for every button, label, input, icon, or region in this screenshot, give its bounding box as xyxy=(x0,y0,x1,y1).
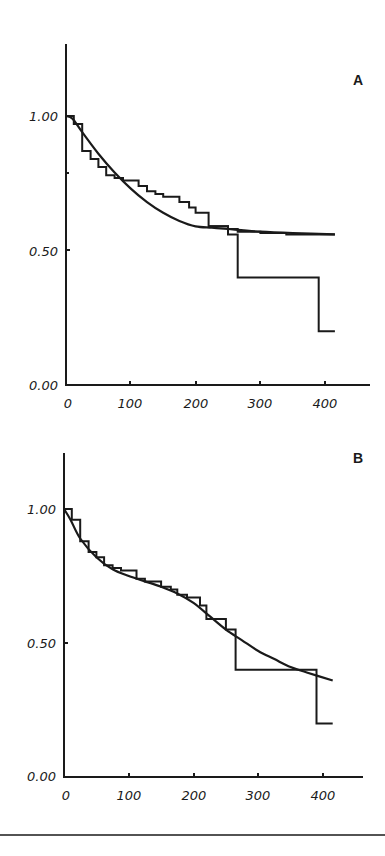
x-tick-label: 100 xyxy=(118,396,143,411)
x-tick-label: 300 xyxy=(248,396,273,411)
x-tick-label: 400 xyxy=(311,788,336,803)
x-tick-label: 0 xyxy=(62,788,70,803)
panel-label-a: A xyxy=(353,72,363,88)
panel-b: 1.00 0.50 0.00 0 100 200 300 400 B xyxy=(27,450,363,803)
y-tick-label: 1.00 xyxy=(29,109,58,124)
fitted-curve xyxy=(64,509,333,681)
x-tick-label: 200 xyxy=(184,396,209,411)
x-tick-label: 100 xyxy=(117,788,142,803)
x-tick-label: 0 xyxy=(64,396,72,411)
y-tick-label: 1.00 xyxy=(27,502,56,517)
y-tick-label: 0.50 xyxy=(29,244,58,259)
plot-area-b xyxy=(64,509,333,723)
step-curve xyxy=(66,116,335,331)
x-tick-label: 400 xyxy=(313,396,338,411)
y-tick-label: 0.00 xyxy=(29,378,58,393)
plot-area-a xyxy=(66,116,335,331)
y-tick-label: 0.00 xyxy=(27,769,56,784)
figure: 1.00 0.50 0.00 0 100 200 300 400 A 1.00 … xyxy=(0,0,385,856)
y-tick-label: 0.50 xyxy=(27,636,56,651)
panel-a: 1.00 0.50 0.00 0 100 200 300 400 A xyxy=(29,44,370,411)
step-curve xyxy=(64,509,333,723)
panel-label-b: B xyxy=(353,450,363,466)
x-tick-label: 200 xyxy=(182,788,207,803)
x-tick-label: 300 xyxy=(246,788,271,803)
